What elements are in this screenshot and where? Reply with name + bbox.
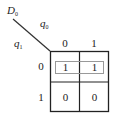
row-label-1: 1 — [37, 92, 45, 103]
cell-r1-c0: 0 — [51, 82, 80, 112]
cell-r0-c1: 1 — [80, 52, 109, 82]
output-var-label: D0 — [7, 5, 18, 20]
cell-r1-c1: 0 — [80, 82, 109, 112]
col-label-0: 0 — [61, 38, 69, 49]
row-label-0: 0 — [37, 61, 45, 72]
col-label-1: 1 — [90, 38, 98, 49]
cell-r0-c0: 1 — [51, 52, 80, 82]
col-var-label: q0 — [40, 18, 49, 33]
row-var-label: q1 — [14, 38, 23, 53]
